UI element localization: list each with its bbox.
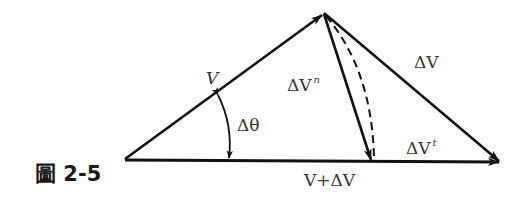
label-delta-V: ΔV [414,54,439,71]
angle-arc [218,95,230,158]
figure-caption-number: 2-5 [63,162,101,186]
label-V: V [206,70,218,87]
figure-caption: 圖 2-5 [35,164,101,185]
vector-V-plus-delta-V [125,160,499,162]
label-delta-theta: Δθ [237,117,260,134]
label-delta-V-normal: ΔVn [287,77,320,94]
figure-caption-prefix: 圖 [35,162,56,186]
dashed-arc [326,16,374,158]
label-delta-V-tangential: ΔVt [406,140,437,157]
label-V-plus-delta-V: V+ΔV [304,172,355,189]
vector-diagram: V Δθ ΔVn ΔV ΔVt V+ΔV 圖 2-5 [0,0,527,197]
